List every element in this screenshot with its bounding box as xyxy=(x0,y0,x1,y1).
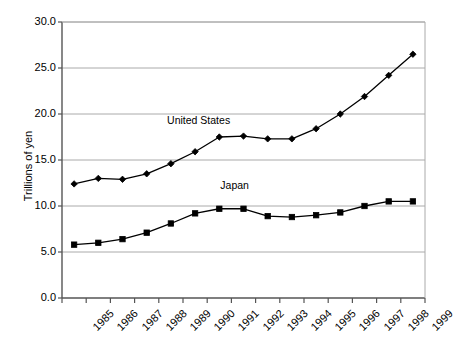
data-point xyxy=(265,136,271,142)
data-point xyxy=(95,175,101,181)
data-point xyxy=(289,214,294,219)
y-tick-label: 15.0 xyxy=(22,154,56,165)
data-point xyxy=(241,206,246,211)
series-line-united-states xyxy=(74,54,413,184)
data-point xyxy=(71,181,77,187)
y-tick-label: 20.0 xyxy=(22,108,56,119)
data-point xyxy=(240,133,246,139)
data-point xyxy=(168,160,174,166)
data-point xyxy=(144,171,150,177)
y-tick-label: 0.0 xyxy=(22,292,56,303)
data-point xyxy=(144,230,149,235)
data-point xyxy=(120,236,125,241)
data-point xyxy=(410,199,415,204)
data-point xyxy=(96,240,101,245)
y-tick-label: 30.0 xyxy=(22,16,56,27)
data-point xyxy=(289,136,295,142)
y-tick-label: 25.0 xyxy=(22,62,56,73)
series-label-united-states: United States xyxy=(167,114,230,126)
data-point xyxy=(192,211,197,216)
data-series-layer xyxy=(71,51,416,247)
data-point xyxy=(217,206,222,211)
data-point xyxy=(265,213,270,218)
series-label-japan: Japan xyxy=(220,179,249,191)
data-point xyxy=(386,199,391,204)
data-point xyxy=(71,242,76,247)
data-point xyxy=(119,176,125,182)
y-tick-label: 5.0 xyxy=(22,246,56,257)
data-point xyxy=(338,210,343,215)
y-tick-label: 10.0 xyxy=(22,200,56,211)
data-point xyxy=(313,126,319,132)
data-point xyxy=(362,203,367,208)
data-point xyxy=(192,149,198,155)
data-point xyxy=(313,213,318,218)
data-point xyxy=(168,221,173,226)
x-axis-ticks xyxy=(62,298,425,303)
data-point xyxy=(216,134,222,140)
